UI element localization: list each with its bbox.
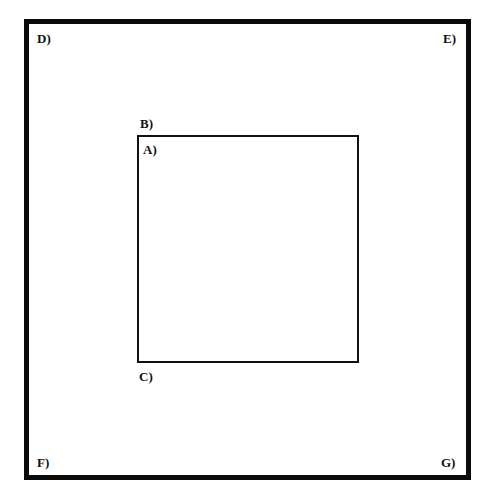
label-e: E) (443, 32, 456, 45)
label-d: D) (37, 32, 51, 45)
inner-rectangle (137, 135, 359, 363)
label-g: G) (441, 456, 455, 469)
label-a: A) (143, 143, 157, 156)
label-b: B) (140, 117, 153, 130)
label-f: F) (37, 456, 49, 469)
label-c: C) (139, 370, 153, 383)
